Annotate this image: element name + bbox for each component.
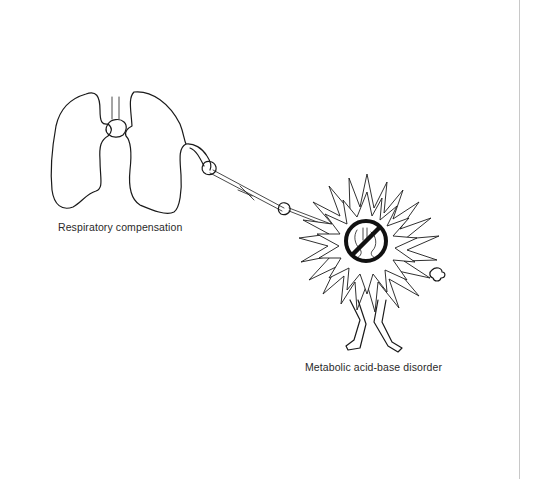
- metabolic-disorder-label: Metabolic acid-base disorder: [305, 361, 442, 373]
- illustration: [0, 0, 533, 479]
- fencing-sword: [210, 170, 331, 227]
- lungs-illustration: [51, 92, 216, 213]
- respiratory-compensation-label: Respiratory compensation: [58, 221, 182, 233]
- spiky-creature: [299, 174, 445, 352]
- page-edge-divider: [519, 0, 520, 479]
- no-kidney-symbol: [346, 221, 386, 261]
- figure-canvas: Respiratory compensation Metabolic acid-…: [0, 0, 533, 479]
